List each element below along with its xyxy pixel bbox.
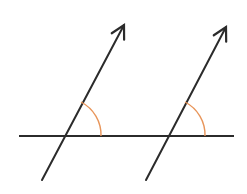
parallel-lines-diagram <box>0 0 247 194</box>
right-arrow-shaft <box>146 27 226 180</box>
right-arrow <box>146 27 226 180</box>
left-angle-arc-icon <box>81 102 101 136</box>
right-angle-arc-icon <box>185 102 205 136</box>
